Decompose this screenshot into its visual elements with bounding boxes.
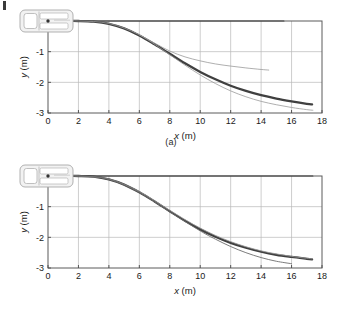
series-divergent-path-thin xyxy=(139,35,268,70)
series-actual-path-thick xyxy=(48,176,312,259)
plot-b: 0246810121416180-1-2-3x (m)y (m) xyxy=(0,155,342,321)
x-tick-label: 0 xyxy=(45,271,50,281)
x-tick-label: 12 xyxy=(226,116,236,126)
x-tick-label: 8 xyxy=(167,116,172,126)
y-tick-label: -1 xyxy=(36,202,44,212)
x-tick-label: 16 xyxy=(287,116,297,126)
plot-group: 0246810121416180-1-2-3x (m)y (m) xyxy=(18,165,327,296)
y-tick-label: -1 xyxy=(36,47,44,57)
x-tick-label: 2 xyxy=(76,116,81,126)
y-axis-title: y (m) xyxy=(18,56,29,79)
x-tick-label: 0 xyxy=(45,116,50,126)
car-window-left xyxy=(40,168,68,174)
x-axis-title: x (m) xyxy=(173,285,196,296)
chart-panel-a: 0246810121416180-1-2-3x (m)y (m) (a) xyxy=(0,0,342,160)
x-tick-label: 4 xyxy=(106,116,111,126)
plot-group: 0246810121416180-1-2-3x (m)y (m) xyxy=(18,10,327,141)
origin-marker xyxy=(46,174,49,177)
panel-a-caption: (a) xyxy=(0,137,342,147)
car-windshield xyxy=(24,169,37,184)
y-tick-label: -2 xyxy=(36,233,44,243)
figure-container: 0246810121416180-1-2-3x (m)y (m) (a) 024… xyxy=(0,0,342,321)
car-window-right xyxy=(40,23,68,29)
x-tick-label: 6 xyxy=(137,116,142,126)
x-tick-label: 6 xyxy=(137,271,142,281)
x-tick-label: 10 xyxy=(195,271,205,281)
y-axis-title: y (m) xyxy=(18,211,29,234)
x-tick-label: 18 xyxy=(317,116,327,126)
x-tick-label: 14 xyxy=(256,116,266,126)
y-tick-label: -3 xyxy=(36,263,44,273)
x-tick-label: 16 xyxy=(287,271,297,281)
x-tick-label: 18 xyxy=(317,271,327,281)
plot-a: 0246810121416180-1-2-3x (m)y (m) xyxy=(0,0,342,160)
car-window-left xyxy=(40,13,68,19)
y-tick-label: -2 xyxy=(36,78,44,88)
x-tick-label: 4 xyxy=(106,271,111,281)
car-windshield xyxy=(24,14,37,29)
series-actual-path-thick xyxy=(48,21,312,104)
car-window-right xyxy=(40,178,68,184)
x-tick-label: 2 xyxy=(76,271,81,281)
chart-panel-b: 0246810121416180-1-2-3x (m)y (m) (b) xyxy=(0,155,342,321)
origin-marker xyxy=(46,19,49,22)
x-tick-label: 14 xyxy=(256,271,266,281)
x-tick-label: 12 xyxy=(226,271,236,281)
x-tick-label: 10 xyxy=(195,116,205,126)
y-tick-label: -3 xyxy=(36,108,44,118)
x-tick-label: 8 xyxy=(167,271,172,281)
